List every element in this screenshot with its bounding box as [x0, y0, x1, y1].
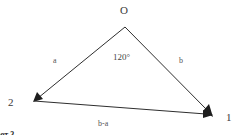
- point-2-label: 2: [8, 96, 14, 108]
- point-origin-label: O: [120, 4, 128, 16]
- vector-b-minus-a-label: b-a: [98, 119, 109, 128]
- vector-b-label: b: [179, 56, 183, 65]
- vector-a-arrowhead-icon: [33, 92, 43, 102]
- vector-b-minus-a-line: [34, 101, 206, 114]
- figure-caption: рот 3: [0, 130, 14, 135]
- vector-b-line: [125, 27, 208, 111]
- vector-a-label: a: [53, 56, 57, 65]
- point-1-label: 1: [226, 111, 232, 123]
- angle-label: 120°: [113, 52, 131, 62]
- vector-a-line: [38, 27, 125, 98]
- vector-diagram: O 2 1 a b b-a 120° рот 3: [0, 0, 237, 135]
